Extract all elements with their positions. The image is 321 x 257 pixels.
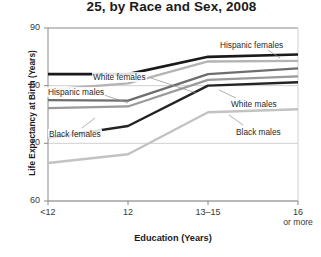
series-annotation-label: Hispanic females: [219, 40, 284, 50]
x-tick-label: 13–15: [195, 207, 220, 217]
series-annotation-label: Black females: [48, 129, 102, 139]
line-chart: 25, by Race and Sex, 2008 Life Expectanc…: [0, 0, 321, 257]
series-annotation-label: White females: [92, 72, 147, 82]
series-annotation-label: Hispanic males: [47, 87, 105, 97]
x-tick-label: 12: [123, 207, 133, 217]
x-tick-label-sub: or more: [283, 217, 313, 228]
series-annotation-label: Black males: [235, 127, 282, 137]
series-annotation-label: White males: [230, 99, 278, 109]
x-tick-label: <12: [40, 207, 55, 217]
x-tick-label: 16or more: [283, 207, 313, 228]
